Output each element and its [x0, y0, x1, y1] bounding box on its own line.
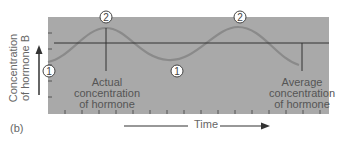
y-axis-label-text: Concentration of hormone B — [7, 28, 31, 108]
marker-2-first-peak: 2 — [100, 11, 112, 23]
hormone-diagram: 1 2 1 2 — [0, 0, 338, 143]
marker-1-middle: 1 — [171, 65, 183, 77]
marker-2-second-peak: 2 — [234, 11, 246, 23]
panel-label: (b) — [10, 122, 23, 134]
y-axis-arrow-icon — [36, 45, 43, 95]
actual-concentration-label: Actual concentration of hormone — [70, 77, 144, 110]
svg-text:2: 2 — [103, 12, 109, 23]
svg-text:1: 1 — [174, 66, 180, 77]
marker-1-left: 1 — [43, 65, 55, 77]
average-concentration-label: Average concentration of hormone — [264, 77, 338, 110]
svg-text:1: 1 — [46, 66, 52, 77]
x-axis-label: Time — [194, 118, 218, 130]
y-axis-label: Concentration of hormone B — [2, 20, 36, 115]
svg-text:2: 2 — [237, 12, 243, 23]
